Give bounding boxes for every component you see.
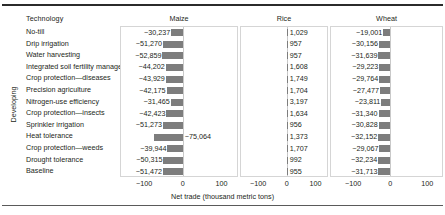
bar-row: 956 [241,120,327,132]
panel-wheat: −19,001−30,156−31,639−29,223−29,764−27,4… [330,26,443,177]
bar-row: −32,152 [331,131,442,143]
bar [287,87,288,94]
bar-value-label: −50,315 [128,154,162,166]
bar-value-label: −51,270 [128,38,162,50]
bar-row: −31,713 [331,166,442,178]
bar-row: 957 [241,39,327,51]
bar [171,99,183,106]
bar-value-label: −32,234 [343,154,377,166]
bar-row: −42,175 [121,85,237,97]
bar-value-label: −75,064 [185,131,211,143]
bar [163,157,182,164]
bar [287,76,288,83]
panel-rice: 1,0299579571,6081,7491,7043,1971,6349561… [240,26,328,177]
bar-row: −30,156 [331,39,442,51]
bar-row: 3,197 [241,97,327,109]
bar-row: −51,270 [121,39,237,51]
bar-row: −27,477 [331,85,442,97]
x-axis-tick-label: 0 [375,179,405,188]
bar [379,110,391,117]
x-axis-tick-label: 100 [412,179,442,188]
x-axis-tick-label: 0 [168,179,198,188]
header-technology: Technology [26,14,63,23]
bar [379,76,390,83]
bar-value-label: 1,373 [290,131,308,143]
category-label: Precision agriculture [26,84,118,96]
bar-row: 1,608 [241,62,327,74]
bar-value-label: −30,156 [344,38,378,50]
bar-value-label: −51,273 [128,119,162,131]
bar-row: −39,944 [121,143,237,155]
category-label: Crop protection—diseases [26,72,118,84]
bar-row: 1,634 [241,108,327,120]
category-label: Water harvesting [26,49,118,61]
bar-row: −29,764 [331,73,442,85]
bar [287,64,288,71]
bar-value-label: −29,764 [344,73,378,85]
bar [166,76,183,83]
bar [287,134,288,141]
column-header-row: Technology Maize Rice Wheat [0,14,445,26]
bar-row: −29,223 [331,62,442,74]
bar [154,134,183,141]
bar-row: −30,237 [121,27,237,39]
category-label: Crop protection—insects [26,107,118,119]
bar-row: −75,064 [121,131,237,143]
bar [167,145,182,152]
category-label: No-till [26,26,118,38]
bar-row: −19,001 [331,27,442,39]
bar-value-label: −31,639 [343,50,377,62]
bar-value-label: 1,029 [290,27,308,39]
bar [378,52,390,59]
bar [379,145,390,152]
bar [287,168,288,175]
x-axis-wheat: −1000100 [330,179,443,191]
bar-row: 1,373 [241,131,327,143]
bar-value-label: −29,223 [344,61,378,73]
bar-row: −23,811 [331,97,442,109]
bar-value-label: −30,828 [344,119,378,131]
x-axis-tick-label: 100 [301,179,331,188]
bar [287,145,288,152]
bar [287,52,288,59]
bar-value-label: −30,237 [136,27,170,39]
bar [287,29,288,36]
bar [163,41,183,48]
category-label: Sprinkler irrigation [26,119,118,131]
bar [378,168,390,175]
bar-row: −51,472 [121,166,237,178]
x-axis-tick-label: 100 [207,179,237,188]
bar [379,41,390,48]
category-label-list: No-tillDrip irrigationWater harvestingIn… [26,26,118,177]
bar-row: 1,704 [241,85,327,97]
bar [287,99,288,106]
bar [166,110,182,117]
category-label: Drip irrigation [26,38,118,50]
header-panel-wheat: Wheat [330,14,443,23]
bar-value-label: 957 [290,50,302,62]
bar-value-label: −23,811 [346,96,380,108]
group-label-developing: Developing [9,60,18,150]
bar [379,64,390,71]
bar-value-label: 957 [290,38,302,50]
bar-row: −51,273 [121,120,237,132]
bar-value-label: −31,465 [136,96,170,108]
bar-value-label: −32,152 [343,131,377,143]
x-axis-tick-label: −100 [129,179,159,188]
bar [378,134,390,141]
bar-value-label: −44,202 [131,61,165,73]
bar-row: 1,707 [241,143,327,155]
bar-value-label: −31,713 [343,166,377,178]
bar-row: 1,029 [241,27,327,39]
category-label: Nitrogen-use efficiency [26,96,118,108]
bar-value-label: −51,472 [128,166,162,178]
bar [287,157,288,164]
bar-value-label: −42,423 [131,108,165,120]
bar-row: 1,749 [241,73,327,85]
bar-value-label: 1,707 [290,143,308,155]
x-axis-tick-label: 0 [272,179,302,188]
bar-value-label: −29,067 [344,143,378,155]
bar-row: −29,067 [331,143,442,155]
bar-row: −50,315 [121,155,237,167]
bar-row: −32,234 [331,155,442,167]
